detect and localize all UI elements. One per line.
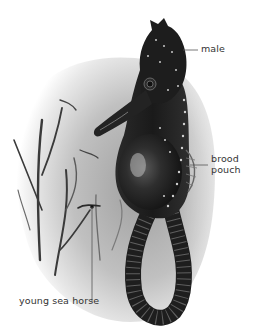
label-male: male — [201, 43, 225, 54]
label-brood-pouch-line-2: pouch — [211, 164, 253, 175]
label-brood-pouch-line-1: brood — [211, 153, 253, 164]
seahorse-diagram: male brood pouch young sea horse — [0, 0, 253, 336]
label-young-sea-horse: young sea horse — [19, 295, 99, 306]
label-brood-pouch: brood pouch — [211, 153, 253, 175]
